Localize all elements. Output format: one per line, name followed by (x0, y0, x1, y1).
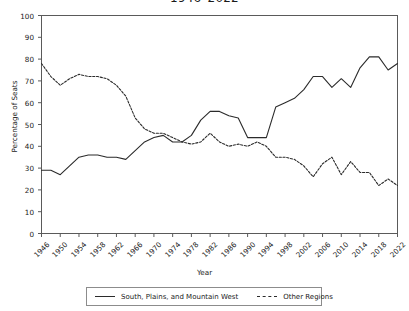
solid-line-swatch-icon (95, 296, 115, 297)
legend-label-series-2: Other Regions (283, 293, 333, 301)
legend-entry-south-plains-mountain-west: South, Plains, and Mountain West (95, 293, 238, 301)
dashed-line-swatch-icon (257, 296, 277, 297)
legend-label-series-1: South, Plains, and Mountain West (121, 293, 238, 301)
x-axis-tick-labels: 1946195019541958196219661970197419781982… (0, 0, 409, 311)
legend-entry-other-regions: Other Regions (257, 293, 333, 301)
chart-figure: 1946–2022 Percentage of Seats Year 01020… (0, 0, 409, 311)
chart-legend: South, Plains, and Mountain West Other R… (86, 287, 322, 306)
